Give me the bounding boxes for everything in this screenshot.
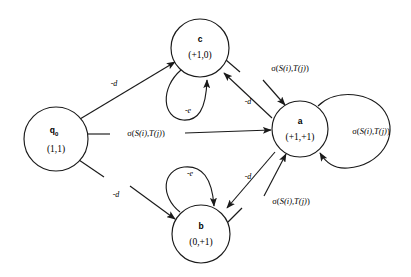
edge-q0-to-c: [80, 62, 175, 119]
state-transition-diagram: q0 (1,1) c (+1,0) a (+1,+1) b (0,+1) -d …: [0, 0, 411, 277]
node-a-circle[interactable]: [272, 101, 328, 157]
node-b-circle[interactable]: [172, 205, 230, 263]
edge-label-c-to-a: σ(S(i),T(j)): [271, 63, 309, 73]
self-loop-label-c: -e: [185, 106, 192, 115]
node-a-label: a: [298, 116, 303, 126]
edge-q0-to-a: [88, 130, 271, 134]
node-q0[interactable]: q0 (1,1): [24, 107, 88, 171]
node-b-value: (0,+1): [189, 237, 213, 248]
node-b-label: b: [198, 221, 203, 231]
edge-label-a-to-b: -d: [245, 172, 253, 181]
node-a[interactable]: a (+1,+1): [272, 101, 328, 157]
node-c-circle[interactable]: [171, 19, 229, 77]
edge-label-q0-to-b: -d: [113, 190, 121, 199]
edge-label-b-to-a: σ(S(i),T(j)): [272, 196, 310, 206]
edge-b-to-a: [228, 154, 286, 222]
edge-a-to-c: [224, 73, 272, 118]
node-q0-circle[interactable]: [24, 107, 88, 171]
edge-label-q0-to-a: σ(S(i),T(j)): [127, 128, 165, 138]
diagram-canvas: q0 (1,1) c (+1,0) a (+1,+1) b (0,+1) -d …: [0, 0, 411, 277]
node-a-value: (+1,+1): [286, 132, 315, 143]
node-b[interactable]: b (0,+1): [172, 205, 230, 263]
node-c[interactable]: c (+1,0): [171, 19, 229, 77]
node-c-label: c: [198, 34, 203, 44]
node-q0-value: (1,1): [47, 144, 65, 155]
edge-q0-to-b: [79, 160, 175, 219]
node-c-value: (+1,0): [188, 50, 212, 61]
edge-label-q0-to-c: -d: [111, 79, 119, 88]
edge-label-a-to-c: -d: [245, 97, 253, 106]
self-loop-label-a: σ(S(i),T(j)): [352, 126, 390, 136]
self-loop-label-b: -e: [187, 169, 194, 178]
